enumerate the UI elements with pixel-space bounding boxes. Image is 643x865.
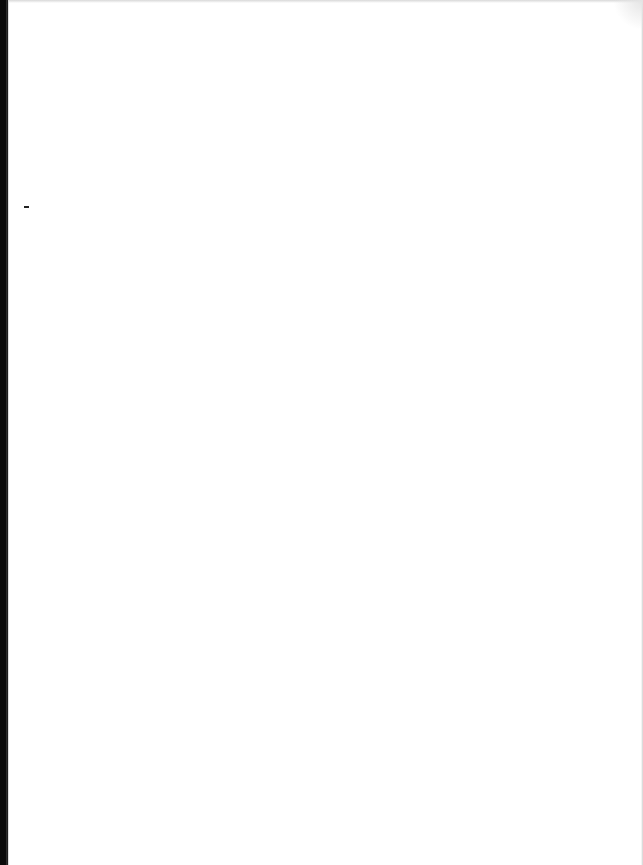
top-scan-shadow [8, 0, 643, 3]
corner-smudge [613, 0, 643, 30]
binding-edge [0, 0, 8, 865]
scan-mark [24, 206, 29, 208]
page-content [40, 40, 603, 825]
